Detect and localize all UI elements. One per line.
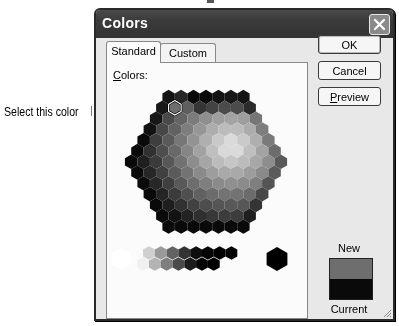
callout-text: Select this color bbox=[4, 105, 79, 119]
current-label: Current bbox=[324, 303, 374, 315]
gray-cell[interactable] bbox=[267, 247, 288, 271]
gray-cell[interactable] bbox=[112, 248, 131, 270]
close-icon bbox=[373, 18, 386, 31]
colors-label: Colors: bbox=[113, 69, 148, 81]
current-color-swatch bbox=[330, 279, 372, 299]
colors-label-accel: C bbox=[113, 69, 121, 81]
grayscale-palette[interactable] bbox=[109, 239, 305, 279]
cancel-button[interactable]: Cancel bbox=[318, 61, 381, 80]
gray-cell[interactable] bbox=[149, 257, 161, 271]
preview-button[interactable]: Preview bbox=[318, 87, 381, 106]
close-button[interactable] bbox=[369, 14, 390, 35]
gray-cell[interactable] bbox=[184, 257, 196, 271]
callout-tick bbox=[91, 106, 92, 116]
gray-cell[interactable] bbox=[137, 257, 149, 271]
gray-cell[interactable] bbox=[202, 246, 214, 260]
standard-panel: Colors: bbox=[106, 62, 308, 319]
colors-dialog: Colors Standard Custom Colors: OK Cancel… bbox=[94, 8, 395, 321]
gray-cell[interactable] bbox=[167, 246, 179, 260]
preview-rest: review bbox=[337, 91, 369, 103]
color-preview-swatch bbox=[329, 258, 373, 300]
dialog-title: Colors bbox=[102, 15, 148, 31]
gray-cell[interactable] bbox=[226, 246, 238, 260]
gray-cell[interactable] bbox=[161, 257, 173, 271]
gray-cell[interactable] bbox=[155, 246, 167, 260]
gray-cell[interactable] bbox=[208, 257, 220, 271]
color-honeycomb[interactable] bbox=[111, 85, 301, 245]
gray-cell[interactable] bbox=[173, 257, 185, 271]
ok-button[interactable]: OK bbox=[318, 35, 381, 54]
colors-label-rest: olors: bbox=[121, 69, 148, 81]
gray-cell[interactable] bbox=[143, 246, 155, 260]
top-edge-fragment bbox=[190, 0, 250, 4]
new-label: New bbox=[324, 242, 374, 254]
new-color-swatch bbox=[330, 259, 372, 279]
resize-grip-icon[interactable] bbox=[382, 308, 392, 318]
title-bar[interactable]: Colors bbox=[96, 10, 393, 38]
gray-cell[interactable] bbox=[196, 257, 208, 271]
gray-cell[interactable] bbox=[178, 246, 190, 260]
gray-cell[interactable] bbox=[214, 246, 226, 260]
gray-cell[interactable] bbox=[190, 246, 202, 260]
tab-custom[interactable]: Custom bbox=[160, 43, 216, 62]
tab-standard[interactable]: Standard bbox=[106, 41, 161, 63]
